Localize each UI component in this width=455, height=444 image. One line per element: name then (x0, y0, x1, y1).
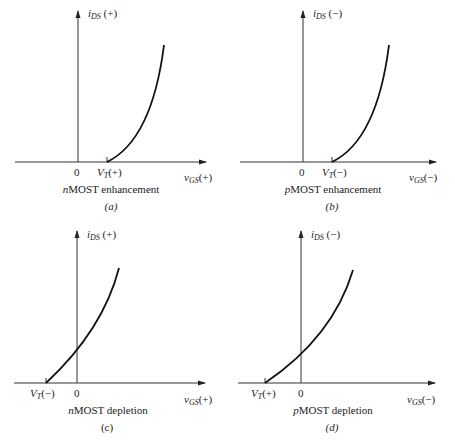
vt-sign: (+) (262, 387, 276, 399)
panel-c-vt-label: VT(−) (30, 388, 55, 399)
panel-b-origin-label: 0 (299, 167, 305, 178)
ids-sign: (+) (104, 7, 118, 19)
panel-c-figure-label: (c) (101, 421, 113, 433)
ids-sign: (+) (103, 228, 117, 240)
vt-sub: T (329, 171, 333, 180)
panel-d-plot (238, 231, 435, 383)
panel-d-figure-label: (d) (326, 421, 339, 433)
panel-a-plot (15, 11, 206, 162)
panel-a-y-axis-label: iDS (+) (88, 8, 117, 19)
panel-d-y-axis-label: iDS (−) (311, 229, 340, 240)
panel-c-x-axis-label: vGS(+) (184, 394, 212, 405)
vgs-sub: GS (412, 398, 422, 407)
vgs-sign: (+) (199, 393, 213, 405)
vgs-sub: GS (189, 176, 199, 185)
ids-sub: DS (314, 233, 324, 242)
panel-d-curve (265, 270, 353, 383)
panel-d-caption: pMOST depletion (293, 404, 373, 416)
vgs-sub: GS (189, 398, 199, 407)
panel-a-x-axis-label: vGS(+) (184, 172, 212, 183)
ids-sub: DS (91, 12, 101, 21)
panel-b-caption: pMOST enhancement (285, 183, 382, 195)
ids-sub: DS (90, 233, 100, 242)
panel-b-curve (332, 45, 389, 162)
panel-a-figure-label: (a) (105, 200, 118, 212)
vgs-sign: (−) (422, 393, 436, 405)
caption-rest: MOST depletion (74, 404, 148, 416)
panel-a-curve (107, 45, 164, 162)
vt-sign: (−) (333, 166, 347, 178)
panel-a-vt-label: VT(+) (97, 167, 122, 178)
vgs-sign: (−) (424, 171, 438, 183)
vt-var: V (322, 166, 329, 178)
caption-rest: MOST enhancement (290, 183, 381, 195)
panel-b-y-axis-label: iDS (−) (313, 8, 342, 19)
ids-sign: (−) (329, 7, 343, 19)
panel-b-vt-label: VT(−) (322, 167, 347, 178)
panel-c-origin-label: 0 (74, 388, 80, 399)
panel-c-curve (46, 268, 119, 383)
panel-a-origin-label: 0 (74, 167, 80, 178)
vt-sub: T (258, 392, 262, 401)
ids-sign: (−) (327, 228, 341, 240)
transfer-characteristics-diagram (0, 0, 455, 444)
panel-c-caption: nMOST depletion (68, 404, 148, 416)
panel-b-figure-label: (b) (326, 200, 339, 212)
vt-sub: T (37, 392, 41, 401)
caption-rest: MOST depletion (299, 404, 373, 416)
vt-var: V (97, 166, 104, 178)
vgs-sub: GS (414, 176, 424, 185)
panel-d-origin-label: 0 (298, 388, 304, 399)
panel-b-plot (240, 11, 436, 162)
vt-var: V (251, 387, 258, 399)
vt-sign: (+) (108, 166, 122, 178)
caption-rest: MOST enhancement (68, 183, 159, 195)
panel-c-plot (14, 231, 205, 383)
panel-d-vt-label: VT(+) (251, 388, 276, 399)
panel-c-y-axis-label: iDS (+) (87, 229, 116, 240)
panel-d-x-axis-label: vGS(−) (407, 394, 435, 405)
vt-sub: T (104, 171, 108, 180)
vt-var: V (30, 387, 37, 399)
vt-sign: (−) (41, 387, 55, 399)
vgs-sign: (+) (199, 171, 213, 183)
ids-sub: DS (316, 12, 326, 21)
panel-b-x-axis-label: vGS(−) (409, 172, 437, 183)
panel-a-caption: nMOST enhancement (63, 183, 160, 195)
